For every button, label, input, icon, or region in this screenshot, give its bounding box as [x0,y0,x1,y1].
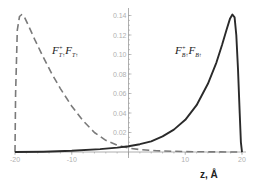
x-tick-label: -20 [10,156,20,163]
x-tick-label: 20 [238,156,246,163]
y-tick-label: 0.06 [113,90,127,97]
y-tick-label: 0.14 [113,12,127,19]
y-tick-label: 0.04 [113,110,127,117]
curve-label: F+B↑FB↑ [174,44,202,58]
x-axis-label: z, Å [200,168,218,180]
x-tick-label: 10 [181,156,189,163]
x-tick-label: -10 [67,156,77,163]
curve-label: F+T↑FT↑ [51,44,78,58]
y-tick-label: 0.12 [113,32,127,39]
y-tick-label: 0.10 [113,51,127,58]
y-tick-label: 0.08 [113,71,127,78]
chart: -20-1010200.020.040.060.080.100.120.14 F… [0,0,257,185]
axes: -20-1010200.020.040.060.080.100.120.14 [10,8,246,163]
y-tick-label: 0.02 [113,129,127,136]
